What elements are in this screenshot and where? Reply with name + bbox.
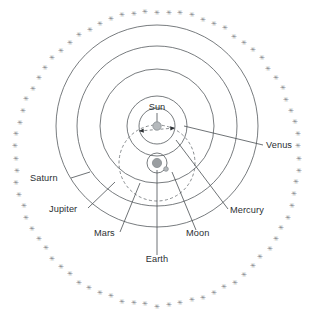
star-glyph: ✳ xyxy=(108,291,114,300)
star-glyph: ✳ xyxy=(291,189,297,198)
earth-body xyxy=(152,158,161,167)
star-glyph: ✳ xyxy=(76,278,82,287)
star-glyph: ✳ xyxy=(295,129,301,138)
tychonic-system-diagram: ✳✳✳✳✳✳✳✳✳✳✳✳✳✳✳✳✳✳✳✳✳✳✳✳✳✳✳✳✳✳✳✳✳✳✳✳✳✳✳✳… xyxy=(0,0,323,318)
star-glyph: ✳ xyxy=(49,254,55,263)
star-glyph: ✳ xyxy=(257,252,263,261)
star-glyph: ✳ xyxy=(241,270,247,279)
star-glyph: ✳ xyxy=(36,73,42,82)
star-glyph: ✳ xyxy=(58,262,64,271)
star-glyph: ✳ xyxy=(211,19,217,28)
star-glyph: ✳ xyxy=(12,141,18,150)
label-jupiter: Jupiter xyxy=(49,204,77,214)
star-glyph: ✳ xyxy=(166,8,172,17)
star-glyph: ✳ xyxy=(67,269,73,278)
star-glyph: ✳ xyxy=(23,213,29,222)
star-glyph: ✳ xyxy=(20,106,26,115)
star-glyph: ✳ xyxy=(292,117,298,126)
label-moon: Moon xyxy=(186,228,209,238)
star-glyph: ✳ xyxy=(16,190,22,199)
celestial-bodies-group xyxy=(152,122,168,172)
star-glyph: ✳ xyxy=(278,223,284,232)
star-glyph: ✳ xyxy=(14,166,20,175)
star-glyph: ✳ xyxy=(250,261,256,270)
star-glyph: ✳ xyxy=(200,293,206,302)
star-glyph: ✳ xyxy=(49,53,55,62)
star-glyph: ✳ xyxy=(23,94,29,103)
star-glyph: ✳ xyxy=(13,129,19,138)
star-glyph: ✳ xyxy=(13,178,19,187)
label-mercury: Mercury xyxy=(230,205,264,215)
star-glyph: ✳ xyxy=(86,283,92,292)
label-mars: Mars xyxy=(94,228,115,238)
star-glyph: ✳ xyxy=(189,295,195,304)
star-glyph: ✳ xyxy=(259,53,265,62)
star-glyph: ✳ xyxy=(29,224,35,233)
star-glyph: ✳ xyxy=(267,244,273,253)
star-glyph: ✳ xyxy=(154,302,160,311)
label-saturn: Saturn xyxy=(30,173,58,183)
label-sun: Sun xyxy=(149,102,166,112)
star-glyph: ✳ xyxy=(200,15,206,24)
star-glyph: ✳ xyxy=(119,297,125,306)
star-glyph: ✳ xyxy=(97,19,103,28)
star-glyph: ✳ xyxy=(280,83,286,92)
star-glyph: ✳ xyxy=(241,38,247,47)
star-glyph: ✳ xyxy=(285,213,291,222)
star-glyph: ✳ xyxy=(265,64,271,73)
label-earth: Earth xyxy=(146,254,168,264)
star-glyph: ✳ xyxy=(87,25,93,34)
star-glyph: ✳ xyxy=(154,8,160,17)
star-glyph: ✳ xyxy=(231,32,237,41)
star-glyph: ✳ xyxy=(177,298,183,307)
star-glyph: ✳ xyxy=(296,166,302,175)
leader-line-saturn xyxy=(71,172,90,178)
star-glyph: ✳ xyxy=(108,14,114,23)
star-glyph: ✳ xyxy=(177,8,183,17)
star-glyph: ✳ xyxy=(36,234,42,243)
star-glyph: ✳ xyxy=(30,84,36,93)
star-glyph: ✳ xyxy=(142,299,148,308)
star-glyph: ✳ xyxy=(222,23,228,32)
moon-body xyxy=(164,167,169,172)
star-glyph: ✳ xyxy=(13,154,19,163)
sun-body xyxy=(153,122,161,130)
star-glyph: ✳ xyxy=(21,201,27,210)
star-glyph: ✳ xyxy=(67,38,73,47)
star-glyph: ✳ xyxy=(293,177,299,186)
star-glyph: ✳ xyxy=(283,95,289,104)
star-glyph: ✳ xyxy=(17,118,23,127)
star-glyph: ✳ xyxy=(76,30,82,39)
star-glyph: ✳ xyxy=(142,7,148,16)
star-glyph: ✳ xyxy=(273,234,279,243)
leader-line-moon xyxy=(172,172,196,230)
leader-line-jupiter xyxy=(88,182,115,208)
star-glyph: ✳ xyxy=(42,63,48,72)
diagram-canvas: ✳✳✳✳✳✳✳✳✳✳✳✳✳✳✳✳✳✳✳✳✳✳✳✳✳✳✳✳✳✳✳✳✳✳✳✳✳✳✳✳… xyxy=(0,0,323,318)
star-glyph: ✳ xyxy=(131,298,137,307)
star-glyph: ✳ xyxy=(97,288,103,297)
star-glyph: ✳ xyxy=(43,243,49,252)
star-glyph: ✳ xyxy=(211,288,217,297)
star-glyph: ✳ xyxy=(189,10,195,19)
star-glyph: ✳ xyxy=(232,278,238,287)
star-glyph: ✳ xyxy=(288,106,294,115)
star-glyph: ✳ xyxy=(289,201,295,210)
star-glyph: ✳ xyxy=(131,9,137,18)
star-glyph: ✳ xyxy=(295,141,301,150)
star-glyph: ✳ xyxy=(273,73,279,82)
star-glyph: ✳ xyxy=(250,45,256,54)
label-venus: Venus xyxy=(266,140,292,150)
star-glyph: ✳ xyxy=(296,154,302,163)
star-glyph: ✳ xyxy=(166,300,172,309)
star-glyph: ✳ xyxy=(119,10,125,19)
leader-line-venus xyxy=(184,126,263,145)
star-glyph: ✳ xyxy=(58,46,64,55)
star-glyph: ✳ xyxy=(221,282,227,291)
